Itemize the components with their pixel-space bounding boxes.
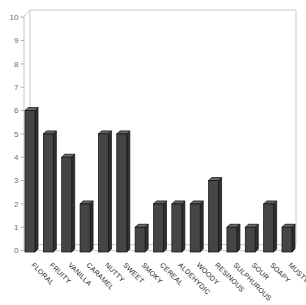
y-tick-label-2: 2 xyxy=(14,200,19,209)
bar-sulphurous xyxy=(227,227,237,252)
y-tick-label-5: 5 xyxy=(14,130,19,139)
y-tick-label-9: 9 xyxy=(14,36,19,45)
bar-musty-side-face xyxy=(292,224,295,252)
bar-soapy-side-face xyxy=(274,201,277,252)
bar-sweet-side-face xyxy=(127,131,130,252)
y-tick-label-6: 6 xyxy=(14,106,19,115)
bar-fruity-side-face xyxy=(53,131,56,252)
y-tick-label-4: 4 xyxy=(14,153,19,162)
chart-canvas: 012345678910FLORALFRUITYVANILLACARAMELNU… xyxy=(0,0,306,305)
bar-sweet xyxy=(117,134,127,252)
plot-frame-line-3 xyxy=(24,10,30,16)
bar-vanilla xyxy=(62,157,72,252)
fragrance-profile-3d-bar-chart: 012345678910FLORALFRUITYVANILLACARAMELNU… xyxy=(0,0,306,305)
bar-resinous xyxy=(209,181,219,252)
bar-fruity xyxy=(43,134,53,252)
bar-soapy xyxy=(264,204,274,252)
y-tick-label-8: 8 xyxy=(14,60,19,69)
bar-sour xyxy=(245,227,255,252)
bar-smoky xyxy=(135,227,145,252)
bar-cereal-side-face xyxy=(163,201,166,252)
y-tick-label-3: 3 xyxy=(14,176,19,185)
bar-caramel xyxy=(80,204,90,252)
bar-resinous-side-face xyxy=(219,178,222,252)
bar-sour-side-face xyxy=(255,224,258,252)
bar-cereal xyxy=(153,204,163,252)
bar-floral-side-face xyxy=(35,108,38,252)
bar-nutty xyxy=(98,134,108,252)
x-category-label-musty: MUSTY xyxy=(287,261,306,284)
bar-woody-side-face xyxy=(200,201,203,252)
bar-smoky-side-face xyxy=(145,224,148,252)
y-tick-label-10: 10 xyxy=(10,13,19,22)
bar-aldehydic xyxy=(172,204,182,252)
bar-aldehydic-side-face xyxy=(182,201,185,252)
y-tick-label-1: 1 xyxy=(14,223,19,232)
bar-floral xyxy=(25,111,35,252)
bar-sulphurous-side-face xyxy=(237,224,240,252)
bar-vanilla-side-face xyxy=(72,154,75,252)
bar-caramel-side-face xyxy=(90,201,93,252)
y-tick-label-0: 0 xyxy=(14,246,19,255)
bar-nutty-side-face xyxy=(108,131,111,252)
bar-musty xyxy=(282,227,292,252)
bar-woody xyxy=(190,204,200,252)
y-tick-label-7: 7 xyxy=(14,83,19,92)
